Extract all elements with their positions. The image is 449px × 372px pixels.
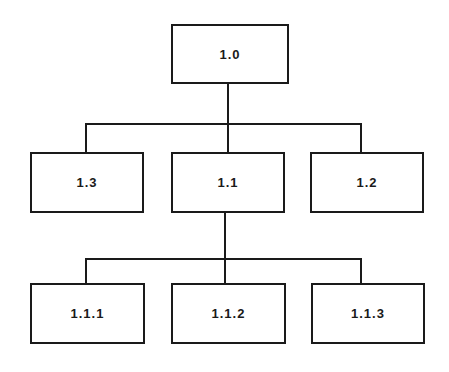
- node-label: 1.1.2: [212, 306, 246, 321]
- node-1-1: 1.1: [171, 152, 285, 213]
- node-1-1-2: 1.1.2: [171, 283, 286, 344]
- node-1-1-1: 1.1.1: [30, 283, 145, 344]
- node-1-2: 1.2: [310, 152, 424, 213]
- node-label: 1.1.3: [351, 306, 385, 321]
- connector-1-1-vertical: [224, 212, 226, 283]
- connector-root-vertical: [227, 83, 229, 152]
- node-label: 1.1.1: [71, 306, 105, 321]
- connector-to-1-3: [85, 123, 87, 152]
- node-1-1-3: 1.1.3: [311, 283, 425, 344]
- connector-level2-horizontal: [85, 258, 362, 260]
- connector-to-1-2: [360, 123, 362, 152]
- connector-level1-horizontal: [85, 123, 362, 125]
- connector-to-1-1-3: [360, 258, 362, 283]
- node-label: 1.0: [219, 47, 240, 62]
- node-label: 1.3: [76, 175, 97, 190]
- node-label: 1.2: [356, 175, 377, 190]
- node-1-3: 1.3: [30, 152, 144, 213]
- node-label: 1.1: [217, 175, 238, 190]
- connector-to-1-1-1: [85, 258, 87, 283]
- node-1-0: 1.0: [171, 24, 289, 84]
